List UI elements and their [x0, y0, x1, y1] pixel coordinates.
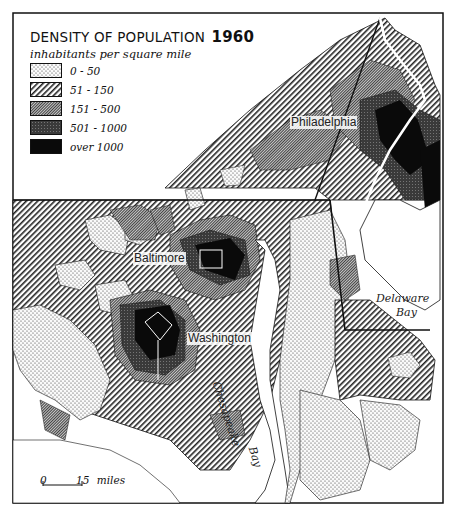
- hatch-swatch-icon: [30, 82, 62, 97]
- legend-item: 501 - 1000: [30, 118, 254, 137]
- legend-title: DENSITY OF POPULATION 1960: [30, 28, 254, 46]
- legend-label: 51 - 150: [70, 84, 114, 96]
- legend-label: 0 - 50: [70, 65, 100, 77]
- scale-unit: miles: [97, 474, 125, 486]
- legend-item: over 1000: [30, 137, 254, 156]
- legend-subtitle: inhabitants per square mile: [30, 47, 254, 61]
- dark-swatch-icon: [30, 120, 62, 135]
- legend-label: 151 - 500: [70, 103, 120, 115]
- scale-end: 15: [76, 474, 89, 486]
- city-label-philadelphia: Philadelphia: [290, 116, 357, 129]
- scale-labels: 0 15 miles: [40, 474, 125, 486]
- water-label-delaware-bay: Bay: [396, 306, 417, 319]
- dots-swatch-icon: [30, 63, 62, 78]
- scale-start: 0: [40, 474, 47, 486]
- city-label-washington: Washington: [187, 332, 252, 345]
- legend-item: 51 - 150: [30, 80, 254, 99]
- legend-year: 1960: [212, 28, 255, 46]
- legend-item: 151 - 500: [30, 99, 254, 118]
- legend-item: 0 - 50: [30, 61, 254, 80]
- city-label-baltimore: Baltimore: [133, 252, 186, 265]
- dense-hatch-swatch-icon: [30, 101, 62, 116]
- legend-title-text: DENSITY OF POPULATION: [30, 29, 205, 45]
- legend-label: over 1000: [70, 141, 124, 153]
- legend-label: 501 - 1000: [70, 122, 127, 134]
- solid-swatch-icon: [30, 139, 62, 154]
- water-label-delaware: Delaware: [376, 292, 429, 305]
- legend: DENSITY OF POPULATION 1960 inhabitants p…: [30, 28, 254, 156]
